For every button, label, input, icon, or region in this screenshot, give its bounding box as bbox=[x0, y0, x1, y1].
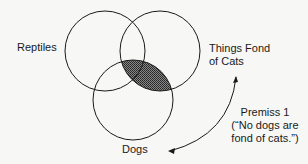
things-fond-of-cats-label-line1: Things Fond bbox=[209, 42, 270, 55]
premiss-text-line1: (“No dogs are bbox=[220, 119, 308, 132]
dogs-label: Dogs bbox=[122, 143, 148, 156]
reptiles-circle bbox=[65, 11, 145, 91]
arrowhead-left-icon bbox=[168, 148, 175, 154]
premiss-label: Premiss 1 bbox=[220, 106, 308, 119]
premiss-text-line2: fond of cats.”) bbox=[220, 132, 308, 145]
reptiles-label: Reptiles bbox=[17, 41, 57, 54]
things-fond-of-cats-label-line2: of Cats bbox=[209, 55, 244, 68]
